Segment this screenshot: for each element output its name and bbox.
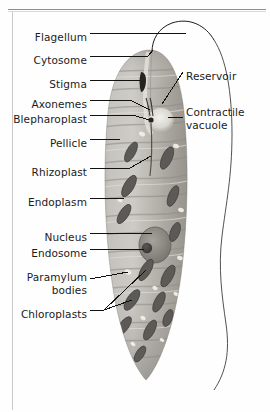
leader-axonemes [90,100,150,110]
label-pellicle: Pellicle [0,137,87,150]
label-flagellum: Flagellum [0,31,87,44]
label-endosome-text: Endosome [31,247,87,259]
leader-reservoir [162,72,183,104]
label-reservoir: Reservoir [186,70,236,83]
label-endosome: Endosome [0,247,87,260]
label-contractile-vacuole: Contractile vacuole [186,106,245,131]
label-reservoir-text: Reservoir [186,70,236,82]
label-cytosome: Cytosome [0,54,87,67]
figure-page: Flagellum Cytosome Stigma Axonemes Bleph… [0,0,270,412]
label-blepharoplast-text: Blepharoplast [13,113,87,125]
label-endoplasm: Endoplasm [0,196,87,209]
label-endoplasm-text: Endoplasm [28,196,87,208]
label-stigma-text: Stigma [49,78,87,90]
label-flagellum-text: Flagellum [35,31,87,43]
label-contractile-vacuole-line2: vacuole [186,119,245,132]
leader-rhizoplast [90,156,151,168]
label-paramylum-bodies-line1: Paramylum [0,271,87,284]
label-chloroplasts-text: Chloroplasts [21,308,87,320]
label-pellicle-text: Pellicle [50,137,87,149]
euglena-diagram: Flagellum Cytosome Stigma Axonemes Bleph… [0,0,270,412]
leader-chloroplasts-1 [90,270,146,310]
label-axonemes-text: Axonemes [31,98,87,110]
label-blepharoplast: Blepharoplast [0,113,87,126]
leader-cytosome [90,50,153,56]
label-nucleus: Nucleus [0,231,87,244]
label-stigma: Stigma [0,78,87,91]
label-cytosome-text: Cytosome [34,54,87,66]
label-paramylum-bodies: Paramylum bodies [0,271,87,296]
label-contractile-vacuole-line1: Contractile [186,106,245,119]
label-paramylum-bodies-line2: bodies [0,284,87,297]
label-rhizoplast-text: Rhizoplast [32,166,87,178]
leader-paramylum-bodies [90,272,128,279]
leader-chloroplasts-2 [104,300,132,310]
label-nucleus-text: Nucleus [45,231,88,243]
label-chloroplasts: Chloroplasts [0,308,87,321]
label-rhizoplast: Rhizoplast [0,166,87,179]
label-axonemes: Axonemes [0,98,87,111]
leader-blepharoplast [90,115,150,120]
